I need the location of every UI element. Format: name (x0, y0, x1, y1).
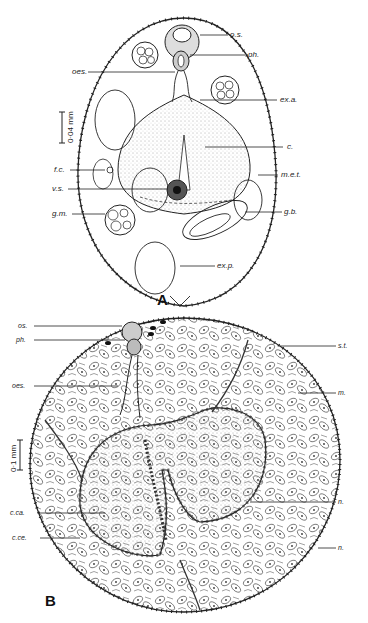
label-caecal-cavity-b: c.ca. (10, 509, 25, 516)
label-spines-tegument-b: s.t. (338, 342, 347, 349)
figure-drawing (0, 0, 368, 623)
panel-letter-a: A (157, 291, 168, 308)
scale-bar-label-a: 0·04 mm (66, 111, 75, 143)
label-nucleus-b-1: n. (338, 498, 344, 505)
label-pharynx-a: ph. (248, 51, 259, 59)
figure: o.s. ph. oes. ex.a. c. f.c. m.e.t. v.s. … (0, 0, 368, 623)
label-caecal-cells-b: c.ce. (12, 534, 27, 541)
label-genital-bursa-a: g.b. (284, 208, 297, 216)
label-germ-mass-a: g.m. (52, 210, 68, 218)
label-excretory-arm-a: ex.a. (280, 96, 297, 104)
label-oral-sucker-b: os. (18, 322, 27, 329)
label-nucleus-b-2: n. (338, 544, 344, 551)
panel-a-scale-bar (59, 112, 65, 143)
panel-letter-b: B (45, 592, 56, 609)
label-ventral-sucker-a: v.s. (52, 185, 64, 193)
label-excretory-pore-a: ex.p. (217, 262, 234, 270)
label-muscle-b: m. (338, 389, 346, 396)
label-pharynx-b: ph. (16, 336, 26, 343)
label-oral-sucker-a: o.s. (230, 31, 243, 39)
panel-a-drawing (78, 18, 276, 306)
scale-bar-label-b: 0·1 mm (9, 445, 18, 472)
label-oesophagus-a: oes. (72, 68, 87, 76)
label-flame-cell-a: f.c. (54, 166, 65, 174)
label-oesophagus-b: oes. (12, 382, 25, 389)
panel-b-drawing (30, 318, 340, 612)
label-caecum-a: c. (287, 143, 293, 151)
label-met-a: m.e.t. (281, 171, 301, 179)
